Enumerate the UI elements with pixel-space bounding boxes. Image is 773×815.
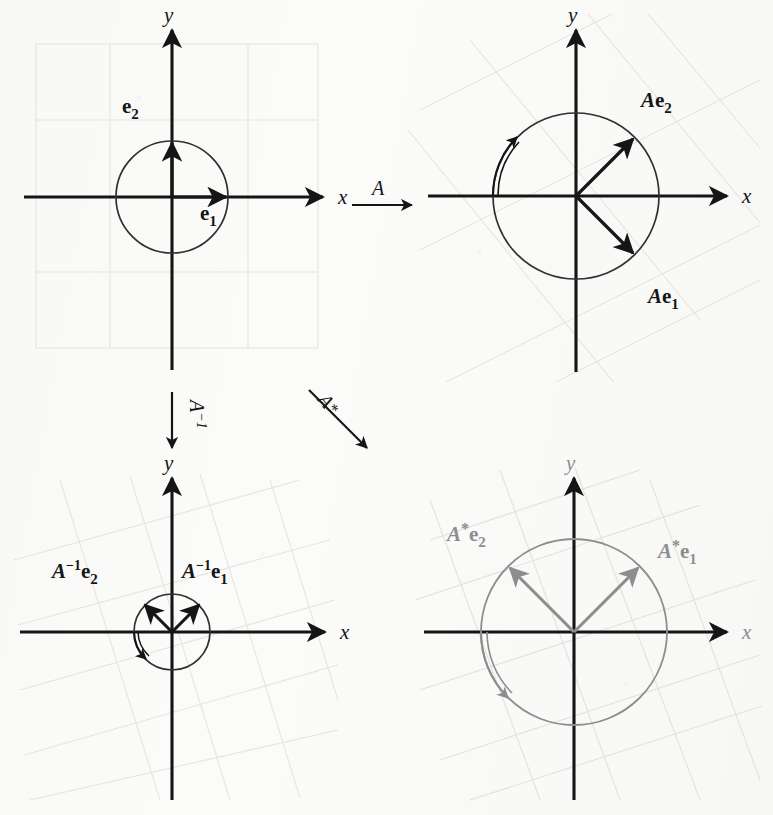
- panel-A-inverse: x y A−1e2 A−1e1: [14, 451, 350, 800]
- panel-A: x y Ae2 Ae1: [408, 0, 770, 420]
- x-axis-label: x: [741, 184, 752, 208]
- map-A-adjoint-label: A*: [313, 387, 344, 418]
- linear-map-figure: x y e1 e2: [0, 0, 773, 815]
- vector-Astar-e2-label: A*e2: [445, 520, 486, 550]
- vector-Ainv-e1: [172, 605, 199, 632]
- panel-identity: x y e1 e2: [24, 3, 348, 370]
- y-axis-label: y: [162, 3, 174, 27]
- x-axis-label: x: [337, 185, 348, 209]
- figure-page: x y e1 e2: [0, 0, 773, 815]
- map-A-adjoint: A*: [309, 387, 367, 448]
- y-axis-label: y: [566, 3, 578, 27]
- vector-e2-label: e2: [122, 94, 139, 122]
- faint-grid-rotated: [415, 468, 762, 800]
- vector-Astar-e2: [510, 568, 574, 632]
- vector-Ainv-e1-label: A−1e1: [180, 558, 228, 587]
- x-axis-label: x: [741, 620, 752, 644]
- rotation-arc-A-adjoint-inner: [487, 632, 512, 693]
- x-axis-label: x: [339, 620, 350, 644]
- panel-A-adjoint: x y A*e2 A*e1: [415, 451, 762, 800]
- rotation-arc-A-inner: [498, 142, 519, 196]
- vector-Ae2-label: Ae2: [639, 88, 672, 116]
- map-A-inverse: A−1: [172, 392, 209, 448]
- faint-grid-rotated: [14, 474, 338, 800]
- vector-Astar-e1-label: A*e1: [656, 537, 697, 567]
- vector-Ainv-e2: [145, 605, 172, 632]
- y-axis-label: y: [564, 451, 576, 475]
- map-A-inverse-label: A−1: [186, 398, 209, 429]
- rotation-arc-A: [493, 137, 517, 196]
- map-A: A: [352, 177, 412, 205]
- vector-Astar-e1: [574, 568, 638, 632]
- vector-e1-label: e1: [200, 201, 217, 229]
- y-axis-label: y: [162, 451, 174, 475]
- vector-Ainv-e2-label: A−1e2: [50, 558, 98, 587]
- map-A-label: A: [370, 177, 385, 199]
